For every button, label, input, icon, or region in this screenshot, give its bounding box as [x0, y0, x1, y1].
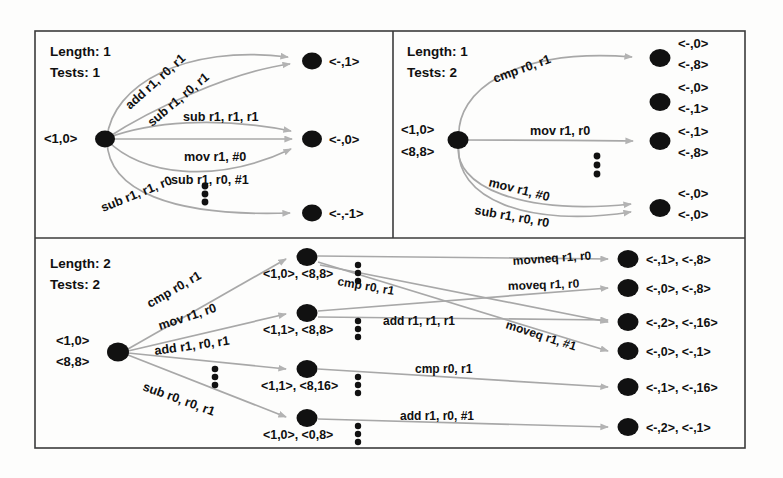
- ellipsis-tl: [202, 183, 209, 206]
- edge-label-b1-1: mov r1, r0: [157, 301, 219, 333]
- mid-node-b-2: [297, 360, 318, 378]
- ellipsis-tr: [594, 153, 601, 178]
- edge-label-b1-0: cmp r0, r1: [145, 268, 204, 310]
- edge-label-tl-3: mov r1, #0: [184, 150, 246, 164]
- edge-label-b2-3: add r1, r1, r1: [383, 314, 455, 328]
- result-label-tr-1a: <-,0>: [678, 80, 709, 95]
- edge-tr-1: [460, 140, 633, 141]
- ellipsis-b-mid-1: [355, 318, 361, 340]
- edge-label-b2-6: add r1, r0, #1: [400, 409, 474, 423]
- panel-top-left: Length: 1 Tests: 1 <1,0> add r1, r0, r1 …: [44, 44, 364, 222]
- edge-label-tl-5: sub r1, r1, r0: [99, 173, 174, 214]
- result-node-b-1: [618, 279, 639, 297]
- result-label-b-3: <-,0>, <-,1>: [646, 345, 711, 359]
- result-label-b-0: <-,1>, <-,8>: [646, 253, 711, 267]
- mid-node-b-0: [297, 248, 318, 266]
- panel-top-right-start-state-0: <1,0>: [401, 122, 435, 137]
- ellipsis-b-mid-2: [355, 374, 361, 396]
- result-node-tr-1: [650, 93, 671, 111]
- panel-top-right-tests: Tests: 2: [407, 65, 457, 80]
- panel-bottom: Length: 2 Tests: 2 <1,0> <8,8> cmp r0, r…: [50, 248, 718, 445]
- start-node-b: [107, 343, 129, 362]
- panel-bottom-start-state-1: <8,8>: [56, 354, 90, 369]
- edge-label-b2-4: moveq r1, #1: [504, 318, 578, 354]
- result-label-tl-0: <-,1>: [329, 54, 360, 69]
- result-node-b-5: [618, 418, 639, 436]
- result-node-b-4: [618, 378, 639, 396]
- panel-bottom-length: Length: 2: [50, 256, 111, 271]
- panel-top-right-start-state-1: <8,8>: [401, 144, 435, 159]
- result-label-tl-2: <-,-1>: [329, 206, 364, 221]
- panel-top-left-start-state-0: <1,0>: [44, 131, 78, 146]
- edge-label-tl-2: sub r1, r1, r1: [183, 110, 259, 124]
- result-node-tr-0: [650, 49, 671, 67]
- start-node-tr: [448, 131, 469, 149]
- mid-node-b-1: [297, 304, 318, 322]
- result-label-tr-3a: <-,0>: [678, 186, 709, 201]
- mid-node-b-3: [297, 409, 318, 427]
- panel-top-right: Length: 1 Tests: 2 <1,0> <8,8> cmp r0, r…: [401, 36, 709, 230]
- result-node-b-0: [618, 250, 639, 268]
- result-label-tr-0b: <-,8>: [678, 57, 709, 72]
- result-label-b-2: <-,2>, <-,16>: [646, 316, 718, 330]
- mid-label-b-1: <1,1>, <8,8>: [263, 323, 333, 337]
- edge-label-b2-5: cmp r0, r1: [415, 362, 473, 376]
- edge-b1-2: [128, 353, 286, 369]
- panel-bottom-start-state-0: <1,0>: [56, 333, 90, 348]
- mid-label-b-0: <1,0>, <8,8>: [263, 267, 333, 281]
- edge-tl-2: [107, 122, 291, 138]
- panel-top-left-tests: Tests: 1: [50, 65, 101, 80]
- mid-label-b-2: <1,1>, <8,16>: [261, 379, 338, 393]
- edge-label-tr-0: cmp r0, r1: [491, 52, 552, 86]
- result-label-tr-0a: <-,0>: [678, 36, 709, 51]
- result-node-tl-0: [302, 53, 322, 70]
- start-node-tl: [95, 131, 115, 148]
- edge-label-b1-2: add r1, r0, r1: [153, 334, 230, 358]
- result-node-tl-2: [302, 205, 322, 222]
- panel-top-left-length: Length: 1: [50, 44, 111, 59]
- ellipsis-b-mid-0: [355, 262, 361, 284]
- diagram-canvas: Length: 1 Tests: 1 <1,0> add r1, r0, r1 …: [0, 0, 783, 478]
- mid-label-b-3: <1,0>, <0,8>: [263, 428, 333, 442]
- ellipsis-b-left: [212, 366, 219, 389]
- result-label-tr-2b: <-,8>: [678, 145, 709, 160]
- result-node-b-3: [618, 342, 639, 360]
- edge-label-tr-1: mov r1, r0: [530, 124, 590, 138]
- result-node-tr-2: [650, 132, 671, 150]
- result-label-tr-1b: <-,1>: [678, 101, 709, 116]
- edge-b2-3: [318, 317, 608, 320]
- edge-label-b2-0: movneq r1, r0: [512, 249, 592, 268]
- panel-top-right-length: Length: 1: [407, 44, 468, 59]
- result-label-tl-1: <-,0>: [329, 132, 360, 147]
- result-label-b-4: <-,1>, <-,16>: [646, 381, 718, 395]
- edge-b2-1: [320, 265, 608, 322]
- edge-label-tl-4: sub r1, r0, #1: [171, 173, 249, 187]
- result-node-b-2: [618, 313, 639, 331]
- result-label-tr-3b: <-,0>: [678, 207, 709, 222]
- result-node-tl-1: [302, 131, 322, 148]
- result-label-b-1: <-,0>, <-,8>: [646, 282, 711, 296]
- figure-root: Length: 1 Tests: 1 <1,0> add r1, r0, r1 …: [0, 0, 783, 478]
- result-node-tr-3: [650, 199, 671, 217]
- result-label-tr-2a: <-,1>: [678, 124, 709, 139]
- edge-label-b2-2: moveq r1, r0: [508, 277, 580, 293]
- result-label-b-5: <-,2>, <-,1>: [646, 421, 711, 435]
- ellipsis-b-mid-3: [355, 423, 361, 445]
- panel-bottom-tests: Tests: 2: [50, 277, 100, 292]
